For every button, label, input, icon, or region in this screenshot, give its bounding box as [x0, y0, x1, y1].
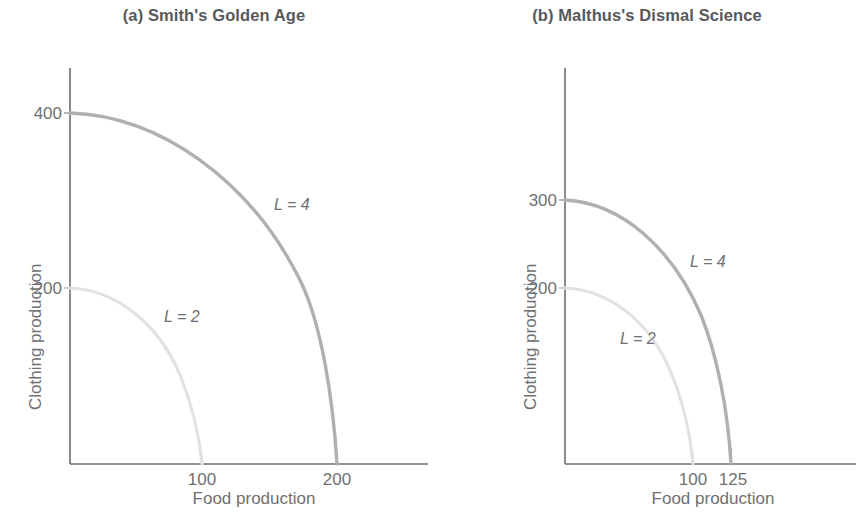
panel-a-curve-label-L2: L = 2 — [164, 308, 200, 326]
panel-a-xtick-label-200: 200 — [307, 470, 367, 490]
panel-a-smiths-golden-age: (a) Smith's Golden Age 400 200 100 200 L… — [0, 0, 428, 512]
panel-b-malthuss-dismal-science: (b) Malthus's Dismal Science 300 200 100… — [428, 0, 856, 512]
panel-b-curve-label-L4: L = 4 — [690, 253, 726, 271]
figure-two-panel-ppf-chart: (a) Smith's Golden Age 400 200 100 200 L… — [0, 0, 857, 512]
panel-a-y-axis-title: Clothing production — [26, 264, 46, 410]
panel-a-xtick-label-100: 100 — [172, 470, 232, 490]
panel-b-curve-label-L2: L = 2 — [620, 330, 656, 348]
panel-b-x-axis-title: Food production — [603, 489, 823, 509]
panel-b-curve-L2 — [565, 288, 693, 464]
panel-a-plot-area — [0, 0, 428, 512]
panel-b-plot-area — [428, 0, 856, 512]
panel-a-ytick-label-400: 400 — [18, 104, 62, 124]
panel-b-xtick-label-125: 125 — [707, 470, 759, 490]
panel-b-y-axis-title: Clothing production — [521, 264, 541, 410]
panel-a-curve-label-L4: L = 4 — [274, 196, 310, 214]
panel-a-curve-L4 — [70, 113, 337, 464]
panel-b-ytick-label-300: 300 — [513, 191, 557, 211]
panel-a-x-axis-title: Food production — [144, 489, 364, 509]
